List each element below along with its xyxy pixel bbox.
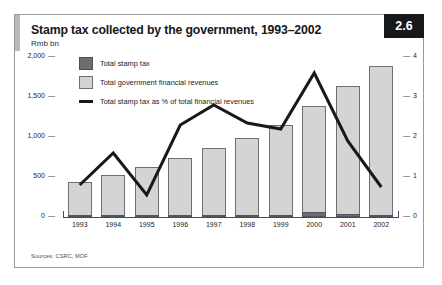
y-axis-right-tick: —3 bbox=[403, 92, 417, 99]
legend-item-stamp: Total stamp tax bbox=[79, 55, 254, 71]
x-axis-tick-label: 2002 bbox=[361, 221, 401, 228]
bar-total-revenues bbox=[168, 158, 192, 217]
bar-total-revenues bbox=[101, 175, 125, 217]
line-series-stamp-tax-share bbox=[15, 15, 425, 269]
y-axis-left-tick: 1,000— bbox=[15, 132, 55, 139]
bar-total-revenues bbox=[135, 167, 159, 217]
bar-total-revenues bbox=[269, 125, 293, 217]
bar-stamp-tax bbox=[135, 215, 159, 217]
bar-total-revenues bbox=[235, 138, 259, 217]
bar-total-revenues bbox=[202, 148, 226, 217]
y-axis-right-tick: —0 bbox=[403, 212, 417, 219]
bar-stamp-tax bbox=[235, 215, 259, 217]
y-axis-left-tick: 1,500— bbox=[15, 92, 55, 99]
bar-stamp-tax bbox=[269, 215, 293, 217]
bar-total-revenues bbox=[302, 106, 326, 217]
y-axis-right-tick: —1 bbox=[403, 172, 417, 179]
y-axis-left-tick: 2,000— bbox=[15, 52, 55, 59]
bar-stamp-tax bbox=[168, 215, 192, 217]
legend-label-stamp: Total stamp tax bbox=[100, 59, 150, 68]
figure-panel: Stamp tax collected by the government, 1… bbox=[14, 14, 424, 268]
legend-label-revenues: Total government financial revenues bbox=[100, 78, 218, 87]
bar-total-revenues bbox=[68, 182, 92, 217]
y-axis-right-tick: —2 bbox=[403, 132, 417, 139]
bar-stamp-tax bbox=[369, 215, 393, 217]
plot-area: 0—500—1,000—1,500—2,000——0—1—2—3—4199319… bbox=[15, 15, 425, 269]
legend-item-share: Total stamp tax as % of total financial … bbox=[79, 93, 254, 109]
legend-item-revenues: Total government financial revenues bbox=[79, 74, 254, 90]
legend-swatch-dark-square-icon bbox=[79, 57, 93, 70]
y-axis-left-stub bbox=[63, 211, 64, 217]
bar-stamp-tax bbox=[302, 212, 326, 217]
source-note: Sources: CSRC, MOF bbox=[31, 253, 88, 259]
bar-stamp-tax bbox=[202, 215, 226, 217]
bar-stamp-tax bbox=[336, 214, 360, 217]
legend-swatch-light-square-icon bbox=[79, 76, 93, 89]
chart-legend: Total stamp tax Total government financi… bbox=[79, 55, 254, 112]
y-axis-right-stub bbox=[398, 211, 399, 217]
y-axis-left-tick: 500— bbox=[15, 172, 55, 179]
x-axis-line bbox=[63, 217, 399, 218]
bar-stamp-tax bbox=[68, 215, 92, 217]
legend-swatch-line-icon bbox=[79, 100, 93, 103]
legend-label-share: Total stamp tax as % of total financial … bbox=[100, 97, 254, 106]
bar-stamp-tax bbox=[101, 215, 125, 217]
bar-total-revenues bbox=[369, 66, 393, 217]
y-axis-right-tick: —4 bbox=[403, 52, 417, 59]
bar-total-revenues bbox=[336, 86, 360, 217]
y-axis-left-tick: 0— bbox=[15, 212, 55, 219]
